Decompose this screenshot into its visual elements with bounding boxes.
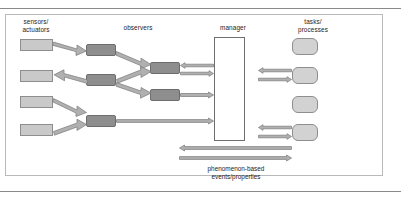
arrow-sensor3-observer3 [53,97,89,119]
arrow-sensor1-observer1 [53,40,89,60]
observer-box-4[interactable] [150,62,180,74]
arrow-bus-left [179,144,292,152]
column-label-sensors: sensors/ actuators [8,18,64,33]
sensor-box-3[interactable] [20,96,53,108]
arrow-observer4-manager [180,70,214,77]
sensor-box-2[interactable] [20,70,53,82]
observer-box-2[interactable] [86,74,116,86]
column-label-tasks: tasks/ processes [285,18,341,33]
arrow-bus-right [179,154,292,162]
column-label-observers: observers [108,24,168,32]
observer-box-3[interactable] [86,115,116,127]
task-box-2[interactable] [292,67,318,84]
diagram-canvas: sensors/ actuators observers manager tas… [0,0,401,198]
arrow-manager-observer4 [180,62,214,69]
arrow-sensor4-observer3 [53,118,89,138]
task-box-3[interactable] [292,96,318,113]
phenomenon-bus-caption: phenomenon-based events/properties [176,165,296,181]
arrow-observer2-sensor2 [52,68,88,88]
arrow-observer3-manager [116,117,214,125]
arrow-observer5-manager [180,91,214,99]
arrow-manager-task4 [258,133,292,140]
observer-box-1[interactable] [86,44,116,56]
arrow-observer2-observer5 [116,81,154,101]
sensor-box-4[interactable] [20,124,53,136]
task-box-1[interactable] [292,38,318,55]
manager-box[interactable] [214,37,245,141]
arrow-task2-manager [258,67,292,74]
bottom-horizontal-rule [0,191,401,192]
task-box-4[interactable] [292,124,318,141]
arrow-manager-task2 [258,76,292,83]
sensor-box-1[interactable] [20,39,53,51]
observer-box-5[interactable] [150,89,180,101]
arrow-task4-manager [258,124,292,131]
top-horizontal-rule [0,8,401,9]
column-label-manager: manager [205,24,261,32]
